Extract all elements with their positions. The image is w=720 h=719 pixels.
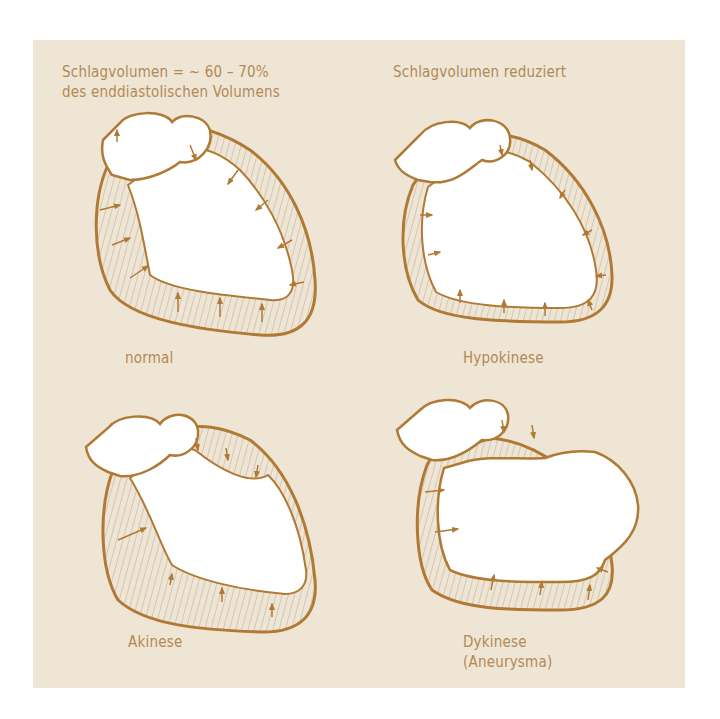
label-normal: normal (125, 348, 173, 368)
caption-stroke-volume-normal: Schlagvolumen = ~ 60 – 70% (62, 62, 269, 82)
caption-stroke-volume-reduced: Schlagvolumen reduziert (393, 62, 566, 82)
label-aneurysma: (Aneurysma) (463, 652, 552, 672)
caption-stroke-volume-normal-line2: des enddiastolischen Volumens (62, 82, 280, 102)
label-hypokinese: Hypokinese (463, 348, 544, 368)
heart-hypokinese (395, 120, 612, 322)
heart-akinese (86, 415, 315, 632)
heart-diagrams (0, 0, 720, 719)
label-dykinese: Dykinese (463, 632, 527, 652)
heart-normal (96, 113, 315, 335)
label-akinese: Akinese (128, 632, 182, 652)
heart-dykinese (397, 400, 638, 610)
